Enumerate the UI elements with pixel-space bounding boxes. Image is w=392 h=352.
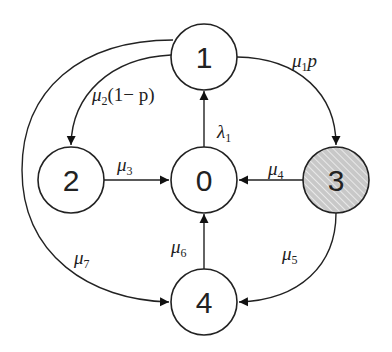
node-0-label: 0	[196, 164, 213, 197]
node-0: 0	[171, 147, 237, 213]
node-1: 1	[171, 24, 237, 90]
label-mu1-p: μ1p	[291, 50, 317, 74]
node-2-label: 2	[63, 164, 80, 197]
node-2: 2	[38, 147, 104, 213]
node-1-label: 1	[196, 41, 213, 74]
label-mu4: μ4	[267, 158, 284, 182]
node-3-label: 3	[328, 164, 345, 197]
label-lambda1: λ1	[216, 121, 231, 145]
label-mu3: μ3	[116, 154, 133, 178]
node-4: 4	[171, 269, 237, 335]
edge-1-to-3	[237, 57, 336, 145]
label-mu6: μ6	[170, 236, 187, 260]
node-3: 3	[303, 147, 369, 213]
label-mu5: μ5	[281, 243, 298, 267]
node-4-label: 4	[196, 286, 213, 319]
label-mu2-1-minus-p: μ2(1− p)	[91, 84, 155, 108]
state-transition-diagram: 1 2 0 3 4 λ1 μ2(1− p) μ1p μ3 μ4 μ5 μ6 μ7	[0, 0, 392, 352]
label-mu7: μ7	[73, 247, 90, 271]
